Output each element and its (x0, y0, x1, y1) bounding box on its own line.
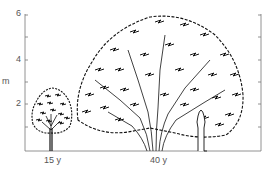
left-axis (25, 14, 28, 151)
right-axis (258, 14, 261, 151)
tree-diagram (0, 0, 271, 172)
tree-15-years (32, 88, 72, 151)
tree-40-years (77, 16, 243, 151)
